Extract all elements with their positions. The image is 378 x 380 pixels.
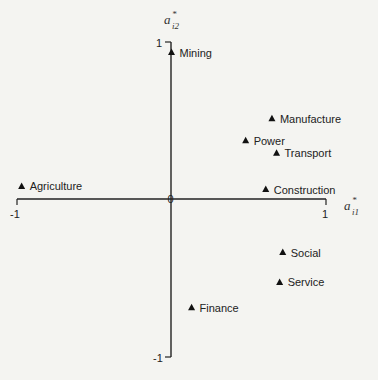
triangle-marker-icon <box>188 304 195 311</box>
point-label: Mining <box>180 47 212 59</box>
svg-text:*: * <box>352 195 357 205</box>
point-label: Agriculture <box>30 180 83 192</box>
x-axis-label: a * i1 <box>344 195 359 217</box>
data-point: Finance <box>188 302 239 314</box>
data-point: Social <box>279 247 320 259</box>
data-point: Construction <box>262 184 335 196</box>
point-label: Social <box>291 247 321 259</box>
triangle-marker-icon <box>279 249 286 256</box>
svg-text:a: a <box>344 198 351 213</box>
scatter-chart: -1 1 1 -1 0 a * i2 a * i1 MiningManufact… <box>0 0 378 380</box>
triangle-marker-icon <box>273 149 280 156</box>
data-point: Manufacture <box>268 113 341 125</box>
svg-text:a: a <box>164 12 171 27</box>
svg-text:i1: i1 <box>352 207 359 217</box>
origin-label: 0 <box>168 193 174 205</box>
x-min-tick: -1 <box>10 208 20 220</box>
svg-text:*: * <box>172 9 177 19</box>
point-label: Service <box>288 276 325 288</box>
data-point: Mining <box>168 47 212 59</box>
x-max-tick: 1 <box>322 208 328 220</box>
triangle-marker-icon <box>168 49 175 56</box>
y-min-tick: -1 <box>153 352 163 364</box>
y-max-tick: 1 <box>156 37 162 49</box>
data-point: Agriculture <box>18 180 82 192</box>
data-points: MiningManufacturePowerTransportAgricultu… <box>18 47 341 314</box>
point-label: Construction <box>274 184 336 196</box>
y-axis-label: a * i2 <box>164 9 180 31</box>
data-point: Transport <box>273 147 331 159</box>
point-label: Transport <box>285 147 332 159</box>
triangle-marker-icon <box>276 278 283 285</box>
point-label: Manufacture <box>280 113 341 125</box>
triangle-marker-icon <box>18 182 25 189</box>
triangle-marker-icon <box>262 186 269 193</box>
point-label: Finance <box>200 302 239 314</box>
point-label: Power <box>254 135 286 147</box>
data-point: Service <box>276 276 324 288</box>
triangle-marker-icon <box>268 115 275 122</box>
triangle-marker-icon <box>242 137 249 144</box>
data-point: Power <box>242 135 285 147</box>
svg-text:i2: i2 <box>172 21 180 31</box>
